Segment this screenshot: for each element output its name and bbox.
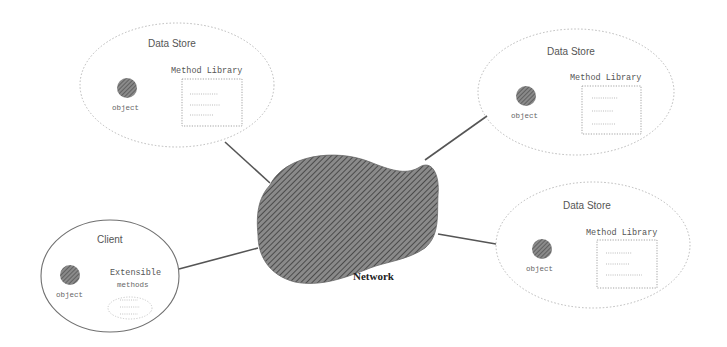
object-label: object bbox=[511, 112, 538, 120]
data-store-top-right: Data Store object Method Library bbox=[478, 29, 674, 155]
method-library-label: Method Library bbox=[570, 73, 641, 83]
object-label: object bbox=[112, 104, 139, 112]
methods-label: methods bbox=[117, 281, 149, 289]
methods-bubble bbox=[108, 297, 152, 319]
data-store-title: Data Store bbox=[563, 200, 611, 211]
network-label: Network bbox=[353, 270, 395, 282]
data-store-bottom-right: Data Store object Method Library bbox=[496, 182, 690, 308]
connector-bottom-right bbox=[438, 234, 496, 244]
object-icon bbox=[516, 86, 536, 106]
object-icon bbox=[60, 265, 80, 285]
client-title: Client bbox=[97, 234, 123, 245]
connector-top-left bbox=[225, 142, 270, 183]
method-library-box bbox=[182, 79, 242, 126]
data-store-title: Data Store bbox=[547, 46, 595, 57]
object-label: object bbox=[526, 265, 553, 273]
connector-top-right bbox=[425, 116, 487, 160]
method-library-box bbox=[582, 86, 641, 134]
network-cloud: Network bbox=[257, 155, 438, 283]
object-icon bbox=[117, 78, 137, 98]
object-label: object bbox=[56, 291, 83, 299]
data-store-title: Data Store bbox=[148, 38, 196, 49]
method-library-label: Method Library bbox=[171, 66, 242, 76]
network-shape bbox=[257, 155, 438, 283]
client-node: Client object Extensible methods bbox=[41, 220, 179, 332]
network-diagram: Network Data Store object Method Library… bbox=[0, 0, 727, 347]
data-store-top-left: Data Store object Method Library bbox=[80, 23, 274, 147]
connector-client bbox=[179, 248, 258, 269]
extensible-label: Extensible bbox=[110, 268, 161, 278]
method-library-label: Method Library bbox=[586, 228, 657, 238]
object-icon bbox=[532, 239, 552, 259]
